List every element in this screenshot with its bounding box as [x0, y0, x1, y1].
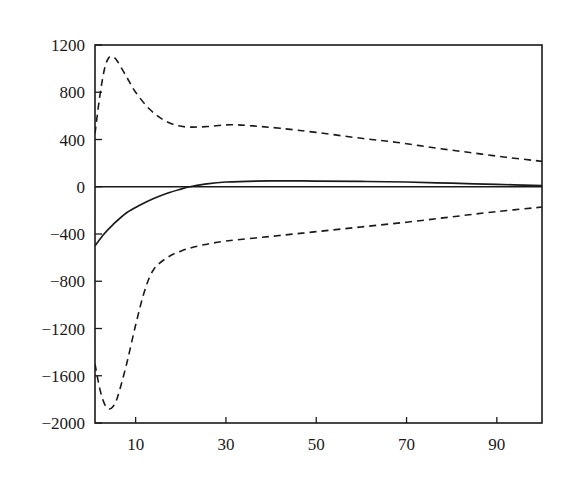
x-tick-label: 90	[488, 435, 505, 454]
y-tick-label: −1200	[41, 320, 85, 339]
series-upper-bound	[95, 56, 542, 161]
x-tick-label: 30	[217, 435, 234, 454]
y-tick-label: −1600	[41, 367, 85, 386]
y-tick-label: 0	[77, 178, 86, 197]
x-tick-label: 50	[308, 435, 325, 454]
x-tick-label: 70	[398, 435, 415, 454]
y-tick-label: −400	[50, 225, 85, 244]
axes	[95, 45, 542, 423]
line-chart: 12008004000−400−800−1200−1600−2000 10305…	[0, 0, 578, 486]
plot-area	[95, 56, 542, 409]
x-tick-label: 10	[127, 435, 144, 454]
series-lower-bound	[95, 207, 542, 409]
x-axis-tick-labels: 1030507090	[127, 435, 505, 454]
y-tick-label: 400	[60, 131, 86, 150]
series-estimate	[95, 181, 542, 246]
y-axis-tick-labels: 12008004000−400−800−1200−1600−2000	[41, 36, 85, 433]
plot-frame	[95, 45, 542, 423]
y-tick-label: 1200	[51, 36, 85, 55]
y-tick-label: −2000	[41, 414, 85, 433]
y-tick-label: 800	[60, 83, 86, 102]
y-tick-label: −800	[50, 272, 85, 291]
